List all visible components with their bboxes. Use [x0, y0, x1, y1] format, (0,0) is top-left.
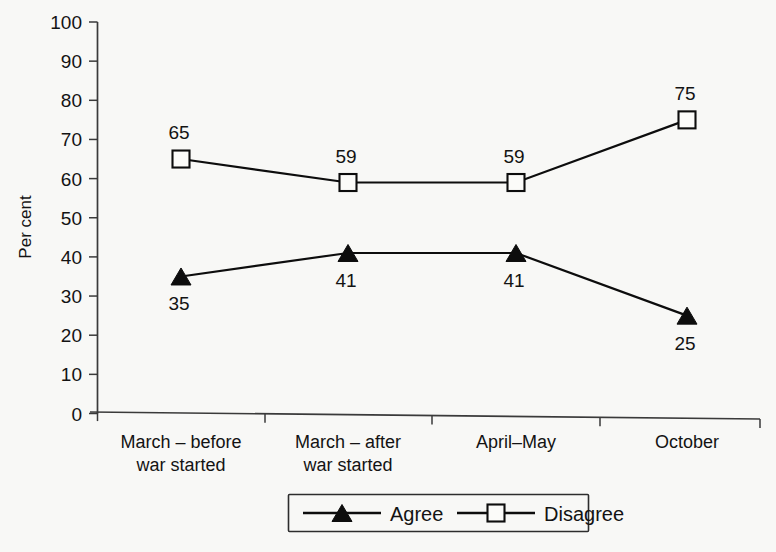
series-line-agree [181, 253, 687, 316]
data-point-label: 59 [335, 146, 356, 167]
data-point-marker-square[interactable] [508, 174, 525, 191]
data-point-marker-square[interactable] [173, 151, 190, 168]
data-point-label: 75 [674, 83, 695, 104]
legend-marker-disagree [488, 505, 505, 522]
data-point-marker-square[interactable] [340, 174, 357, 191]
y-tick-label: 10 [61, 364, 82, 385]
data-point-label: 41 [503, 270, 524, 291]
data-point-label: 41 [335, 270, 356, 291]
data-point-label: 65 [168, 122, 189, 143]
legend-label-disagree[interactable]: Disagree [544, 503, 624, 525]
y-tick-label: 20 [61, 325, 82, 346]
data-point-label: 35 [168, 293, 189, 314]
y-tick-label: 70 [61, 129, 82, 150]
legend[interactable]: AgreeDisagree [289, 495, 625, 532]
y-tick-label: 100 [50, 12, 82, 33]
x-axis-category-label: October [655, 432, 719, 452]
line-chart: Per cent 0102030405060708090100 March – … [0, 0, 776, 552]
legend-label-agree[interactable]: Agree [390, 503, 443, 525]
x-axis-category-label: March – before [120, 432, 241, 452]
x-axis-category-labels: March – beforewar startedMarch – afterwa… [120, 432, 719, 475]
y-tick-label: 60 [61, 169, 82, 190]
y-axis: 0102030405060708090100 [50, 12, 97, 425]
data-point-label: 25 [674, 333, 695, 354]
x-axis-line [90, 412, 760, 419]
series-line-disagree [181, 120, 687, 183]
y-tick-label: 0 [71, 404, 82, 425]
chart-container: Per cent 0102030405060708090100 March – … [0, 0, 776, 552]
series-layer [171, 111, 697, 324]
data-label-layer: 3541412565595975 [168, 83, 695, 354]
x-axis-category-label: war started [135, 455, 225, 475]
y-tick-label: 30 [61, 286, 82, 307]
data-point-marker-square[interactable] [679, 111, 696, 128]
data-point-label: 59 [503, 146, 524, 167]
y-axis-title: Per cent [16, 195, 35, 259]
y-tick-label: 50 [61, 208, 82, 229]
x-axis-category-label: April–May [476, 432, 556, 452]
y-tick-label: 80 [61, 90, 82, 111]
x-axis-category-label: war started [302, 455, 392, 475]
y-tick-label: 90 [61, 51, 82, 72]
x-axis-category-label: March – after [295, 432, 401, 452]
x-axis [98, 412, 761, 428]
data-point-marker-triangle[interactable] [677, 307, 697, 324]
y-tick-label: 40 [61, 247, 82, 268]
